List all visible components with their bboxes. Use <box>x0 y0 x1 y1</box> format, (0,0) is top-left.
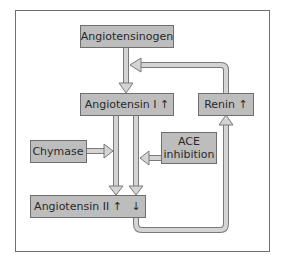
angiotensin-ii-decrease-arrow: ↓ <box>131 200 140 213</box>
node-ace-inhibition: ACE inhibition <box>162 133 217 164</box>
node-chymase: Chymase <box>31 141 87 163</box>
node-angiotensinogen-label: Angiotensinogen <box>81 30 174 43</box>
raas-diagram: Angiotensinogen Angiotensin I ↑ Renin ↑ … <box>0 0 290 259</box>
node-angiotensin-ii: Angiotensin II ↑ ↓ <box>31 196 146 218</box>
node-ace-inhibition-label-line2: inhibition <box>163 148 214 161</box>
node-renin-label: Renin ↑ <box>204 98 248 111</box>
node-angiotensinogen: Angiotensinogen <box>81 26 174 48</box>
node-ace-inhibition-label-line1: ACE <box>178 135 200 148</box>
node-angiotensin-i-label: Angiotensin I ↑ <box>85 98 170 111</box>
node-renin: Renin ↑ <box>199 94 254 116</box>
node-angiotensin-ii-label: Angiotensin II ↑ <box>34 200 122 213</box>
node-chymase-label: Chymase <box>32 145 83 158</box>
node-angiotensin-i: Angiotensin I ↑ <box>81 94 174 116</box>
